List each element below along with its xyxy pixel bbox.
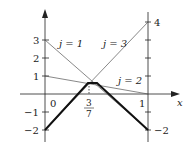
x-tick-0: 0 [50, 98, 56, 109]
tick-label-1: 1 [33, 71, 39, 82]
tick-label-neg2: −2 [24, 125, 39, 136]
tick-label-right-4: 4 [154, 17, 160, 28]
figure: 3 2 1 −1 −2 4 −2 0 1 3 7 x j = 1 j = 3 j… [0, 0, 194, 148]
label-j1: j = 1 [57, 38, 83, 49]
bold-envelope [45, 83, 148, 130]
x-tick-frac-den: 7 [86, 109, 92, 119]
x-axis-label: x [177, 97, 183, 108]
tick-label-neg1: −1 [24, 107, 39, 118]
y-axis-arrow-icon [42, 9, 48, 18]
tick-label-right-neg2: −2 [154, 125, 169, 136]
label-j3: j = 3 [101, 38, 127, 49]
x-tick-frac-num: 3 [86, 98, 92, 108]
tick-label-2: 2 [33, 53, 39, 64]
label-j2: j = 2 [116, 75, 142, 86]
x-tick-1: 1 [139, 98, 145, 109]
tick-label-3: 3 [33, 35, 39, 46]
left-ticks [42, 40, 49, 130]
